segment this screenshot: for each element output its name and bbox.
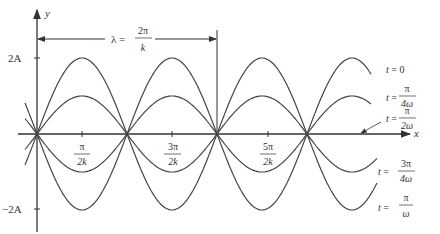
svg-text:2k: 2k <box>263 156 273 167</box>
svg-text:3π: 3π <box>401 158 411 169</box>
svg-text:π: π <box>403 192 408 203</box>
svg-text:2k: 2k <box>168 156 178 167</box>
svg-text:5π: 5π <box>263 141 273 152</box>
x-tick-3pi-2k: 3π 2k <box>164 131 181 167</box>
label-t-3pi-4w: t = 3π 4ω <box>378 158 415 184</box>
svg-text:3π: 3π <box>168 141 178 152</box>
y-tick-label-2A: 2A <box>8 52 22 64</box>
svg-text:π: π <box>404 105 409 116</box>
wavelength-marker: λ = 2π k <box>38 25 217 134</box>
y-axis-label: y <box>44 7 50 19</box>
wavelength-den: k <box>141 42 146 53</box>
x-axis-label: x <box>413 127 419 139</box>
svg-text:π: π <box>79 141 84 152</box>
label-t0: t = 0 <box>386 64 404 75</box>
wavelength-lhs: λ = <box>111 33 125 45</box>
wavelength-num: 2π <box>138 25 148 36</box>
x-tick-pi-2k: π 2k <box>74 131 90 167</box>
label-t-pi-2w: t = π 2ω <box>361 105 416 133</box>
svg-text:ω: ω <box>402 208 409 219</box>
svg-text:π: π <box>404 83 409 94</box>
svg-text:t = 0: t = 0 <box>386 64 404 75</box>
diagram-canvas: y x 2A −2A π 2k 3π 2k 5π 2k λ = 2π k t =… <box>0 0 440 234</box>
svg-text:t =: t = <box>378 202 389 213</box>
label-t-pi-w: t = π ω <box>378 192 413 219</box>
x-tick-5pi-2k: 5π 2k <box>260 131 276 167</box>
svg-text:t =: t = <box>378 166 389 177</box>
y-tick-label-neg2A: −2A <box>2 203 22 215</box>
svg-text:2ω: 2ω <box>401 120 413 131</box>
svg-text:t =: t = <box>386 113 397 124</box>
svg-text:2k: 2k <box>77 156 87 167</box>
svg-text:4ω: 4ω <box>400 173 412 184</box>
label-t-pi-4w: t = π 4ω <box>386 83 416 109</box>
svg-text:t =: t = <box>386 92 397 103</box>
standing-wave-diagram: y x 2A −2A π 2k 3π 2k 5π 2k λ = 2π k t =… <box>0 0 440 234</box>
